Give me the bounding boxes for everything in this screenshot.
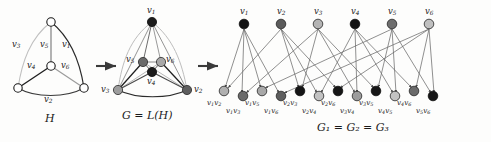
g-caption: G = L(H) xyxy=(122,110,173,121)
g-node-label-v6: v6 xyxy=(166,55,174,65)
bip-top-node-v2 xyxy=(276,19,286,29)
bip-bottom-label-v5v6: v5v6 xyxy=(416,107,430,115)
bip-top-label-v4: v4 xyxy=(351,7,359,17)
bip-bottom-label-v2v4: v2v4 xyxy=(302,107,316,115)
panel-h-graph xyxy=(14,18,88,96)
h-vertex-top xyxy=(47,18,55,26)
bip-bottom-node-v5v6 xyxy=(428,91,438,101)
bip-bottom-label-v3v5: v3v5 xyxy=(359,99,373,107)
h-vertex-bottom-left xyxy=(14,84,22,92)
h-edge-label-v3: v3 xyxy=(12,40,20,50)
g-node-label-v5: v5 xyxy=(126,55,134,65)
h-edge-label-v1: v1 xyxy=(62,40,70,50)
figure-container: v3 v1 v5 v4 v6 v2 H v1 v5 v6 v4 v3 v2 G … xyxy=(0,0,491,142)
g-node-label-v4: v4 xyxy=(147,77,155,87)
h-edge-label-v4: v4 xyxy=(27,61,35,71)
bip-top-label-v6: v6 xyxy=(425,7,433,17)
bip-bottom-label-v4v5: v4v5 xyxy=(378,107,392,115)
bip-top-node-v3 xyxy=(313,19,323,29)
figure-drawing-layer xyxy=(0,0,491,142)
bip-top-node-v4 xyxy=(350,19,360,29)
panel-bipartite-graph xyxy=(219,19,438,101)
edge-v3 xyxy=(18,22,51,88)
bipartite-edges xyxy=(225,29,434,93)
bip-bottom-label-v3v4: v3v4 xyxy=(340,107,354,115)
bipartite-caption: G₁ = G₂ = G₃ xyxy=(317,122,389,133)
h-caption: H xyxy=(45,113,55,124)
bip-bottom-label-v2v6: v2v6 xyxy=(321,99,335,107)
bip-top-label-v3: v3 xyxy=(314,7,322,17)
bip-top-node-v5 xyxy=(387,19,397,29)
h-edge-label-v6: v6 xyxy=(61,61,69,71)
g-node-v2 xyxy=(182,85,191,94)
h-vertex-center xyxy=(47,62,55,70)
edge-v1 xyxy=(51,22,84,88)
bip-bottom-node-v2v3 xyxy=(295,86,305,96)
bip-top-label-v5: v5 xyxy=(388,7,396,17)
bip-bottom-node-v4v6 xyxy=(409,86,419,96)
g-node-v3 xyxy=(113,85,122,94)
bip-top-node-v1 xyxy=(239,19,249,29)
bip-bottom-node-v2v6 xyxy=(333,86,343,96)
bip-bottom-node-v3v5 xyxy=(371,86,381,96)
g-node-label-v2: v2 xyxy=(194,85,202,95)
g-edge-v4-v2 xyxy=(152,72,187,90)
h-vertex-bottom-right xyxy=(80,84,88,92)
bip-bottom-label-v1v5: v1v5 xyxy=(245,99,259,107)
bip-bottom-label-v1v6: v1v6 xyxy=(264,107,278,115)
g-node-label-v1: v1 xyxy=(147,6,155,16)
g-node-label-v3: v3 xyxy=(101,85,109,95)
g-node-v5 xyxy=(138,57,147,66)
bip-top-node-v6 xyxy=(424,19,434,29)
g-node-v1 xyxy=(147,17,156,26)
bip-bottom-label-v1v2: v1v2 xyxy=(207,99,221,107)
h-edge-label-v2: v2 xyxy=(44,95,52,105)
bip-bottom-node-v1v5 xyxy=(257,86,267,96)
bip-bottom-label-v4v6: v4v6 xyxy=(397,99,411,107)
bip-top-label-v2: v2 xyxy=(277,7,285,17)
g-node-v6 xyxy=(156,57,165,66)
bip-bottom-label-v1v3: v1v3 xyxy=(226,107,240,115)
h-edge-label-v5: v5 xyxy=(40,40,48,50)
bip-bottom-node-v1v2 xyxy=(219,86,229,96)
bip-bottom-label-v2v3: v2v3 xyxy=(283,99,297,107)
g-outer-bottom xyxy=(118,90,187,97)
bip-top-label-v1: v1 xyxy=(240,7,248,17)
